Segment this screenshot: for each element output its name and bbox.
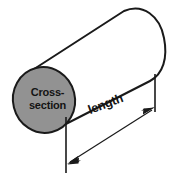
cross-section-label-line1: Cross- (20, 86, 75, 99)
cylinder-diagram: Cross- section length (0, 0, 174, 175)
cross-section-label-line2: section (20, 99, 75, 112)
cross-section-label: Cross- section (20, 86, 75, 112)
